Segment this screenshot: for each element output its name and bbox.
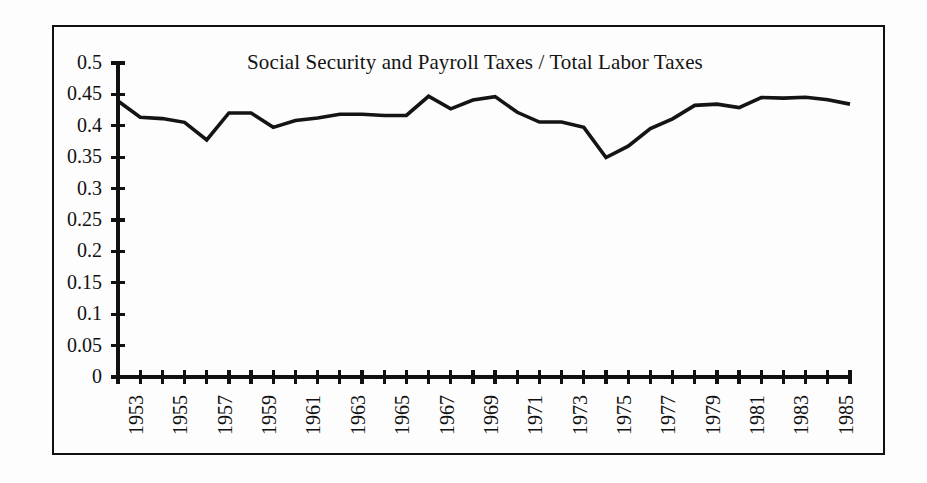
x-tick-label: 1981 [747, 395, 767, 435]
y-tick-label: 0.1 [32, 303, 102, 323]
chart-plot-area: Social Security and Payroll Taxes / Tota… [0, 0, 927, 483]
x-tick-label: 1967 [437, 395, 457, 435]
figure-canvas: Social Security and Payroll Taxes / Tota… [0, 0, 927, 483]
y-tick-label: 0.15 [32, 272, 102, 292]
x-tick-label: 1965 [392, 395, 412, 435]
x-tick-label: 1953 [126, 395, 146, 435]
y-tick-label: 0.35 [32, 146, 102, 166]
x-tick-label: 1983 [791, 395, 811, 435]
x-tick-label: 1961 [303, 395, 323, 435]
x-tick-label: 1955 [170, 395, 190, 435]
chart-series [118, 96, 850, 157]
x-tick-label: 1971 [525, 395, 545, 435]
x-tick-label: 1973 [570, 395, 590, 435]
y-tick-label: 0.4 [32, 115, 102, 135]
x-tick-label: 1959 [259, 395, 279, 435]
data-line-series-0 [118, 96, 850, 157]
y-tick-label: 0.3 [32, 178, 102, 198]
x-tick-label: 1963 [348, 395, 368, 435]
chart-axes [111, 63, 850, 384]
y-tick-label: 0.25 [32, 209, 102, 229]
x-tick-label: 1969 [481, 395, 501, 435]
x-tick-label: 1985 [836, 395, 856, 435]
x-tick-label: 1957 [215, 395, 235, 435]
y-tick-label: 0.45 [32, 83, 102, 103]
y-tick-label: 0.2 [32, 240, 102, 260]
y-tick-label: 0 [32, 366, 102, 386]
y-tick-label: 0.5 [32, 52, 102, 72]
y-tick-label: 0.05 [32, 335, 102, 355]
x-tick-label: 1979 [703, 395, 723, 435]
x-tick-label: 1977 [658, 395, 678, 435]
x-tick-label: 1975 [614, 395, 634, 435]
